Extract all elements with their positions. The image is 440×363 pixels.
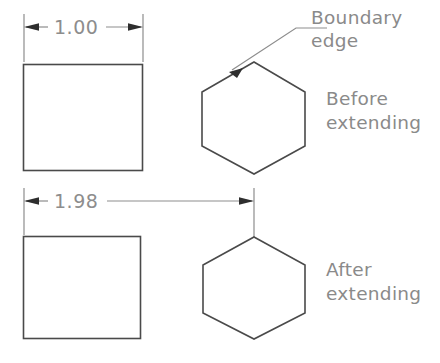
dimension-arrow-right-bottom <box>239 197 254 205</box>
boundary-edge-label-line1: Boundary <box>311 7 403 28</box>
hexagon-after <box>203 237 305 339</box>
before-extending-label-line2: extending <box>326 112 421 133</box>
dimension-arrow-left-bottom <box>24 197 39 205</box>
hexagon-before <box>202 62 305 174</box>
dimension-value-bottom: 1.98 <box>54 190 98 212</box>
technical-drawing-svg: 1.00 Boundary edge Before extending 1.98 <box>0 0 440 363</box>
drawing-canvas: 1.00 Boundary edge Before extending 1.98 <box>0 0 440 363</box>
dimension-arrow-right-top <box>128 23 143 31</box>
before-extending-label-line1: Before <box>326 88 388 109</box>
dimension-arrow-left-top <box>24 23 39 31</box>
after-extending-label-line2: extending <box>326 283 421 304</box>
after-extending-label-line1: After <box>326 259 372 280</box>
square-before <box>24 65 143 171</box>
leader-arrow-boundary-edge <box>229 68 243 78</box>
square-after <box>24 237 141 339</box>
dimension-value-top: 1.00 <box>54 16 98 38</box>
boundary-edge-label-line2: edge <box>311 30 358 51</box>
